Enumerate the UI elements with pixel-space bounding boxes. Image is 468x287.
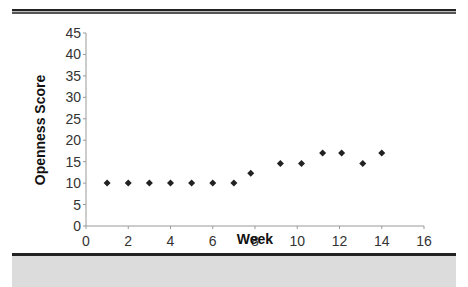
data-point-diamond-icon xyxy=(247,170,254,177)
data-point-diamond-icon xyxy=(230,180,237,187)
x-tick-label: 6 xyxy=(209,233,217,249)
x-tick-label: 4 xyxy=(167,233,175,249)
x-tick-label: 2 xyxy=(124,233,132,249)
x-axis-label: Week xyxy=(237,231,274,247)
y-tick-label: 0 xyxy=(73,218,81,234)
y-tick-label: 35 xyxy=(65,68,81,84)
data-point-diamond-icon xyxy=(319,150,326,157)
y-tick-label: 30 xyxy=(65,89,81,105)
axes: 0510152025303540450246810121416 xyxy=(65,25,432,249)
y-axis-label: Openness Score xyxy=(32,75,48,186)
data-point-diamond-icon xyxy=(146,180,153,187)
data-point-diamond-icon xyxy=(338,150,345,157)
scatter-chart: 0510152025303540450246810121416 Week Ope… xyxy=(0,0,468,287)
x-tick-label: 12 xyxy=(332,233,348,249)
y-tick-label: 25 xyxy=(65,111,81,127)
data-point-diamond-icon xyxy=(277,160,284,167)
data-point-diamond-icon xyxy=(298,160,305,167)
x-tick-label: 14 xyxy=(374,233,390,249)
data-point-diamond-icon xyxy=(378,150,385,157)
data-point-diamond-icon xyxy=(188,180,195,187)
data-point-diamond-icon xyxy=(167,180,174,187)
data-point-diamond-icon xyxy=(125,180,132,187)
y-tick-label: 40 xyxy=(65,46,81,62)
y-tick-label: 10 xyxy=(65,175,81,191)
data-points xyxy=(104,150,386,187)
y-tick-label: 45 xyxy=(65,25,81,41)
y-tick-label: 15 xyxy=(65,154,81,170)
x-tick-label: 16 xyxy=(416,233,432,249)
data-point-diamond-icon xyxy=(359,160,366,167)
x-tick-label: 0 xyxy=(82,233,90,249)
x-tick-label: 10 xyxy=(289,233,305,249)
y-tick-label: 20 xyxy=(65,132,81,148)
data-point-diamond-icon xyxy=(104,180,111,187)
y-tick-label: 5 xyxy=(73,197,81,213)
data-point-diamond-icon xyxy=(209,180,216,187)
